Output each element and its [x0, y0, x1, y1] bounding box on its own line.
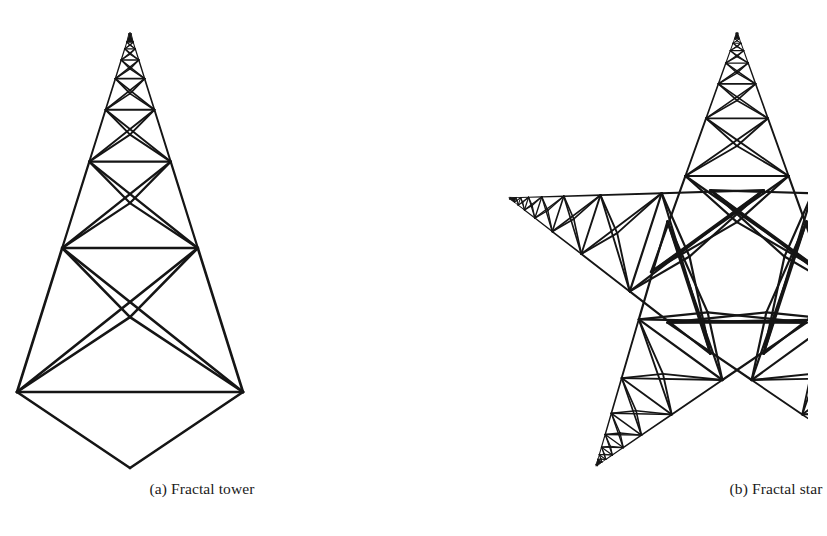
fractal-star-lines	[509, 32, 808, 466]
figure-panel-b: (b) Fractal star	[404, 0, 808, 536]
caption-fractal-tower: (a) Fractal tower	[0, 480, 404, 499]
fractal-tower-lines	[17, 32, 243, 468]
caption-fractal-star: (b) Fractal star	[404, 480, 827, 499]
fractal-tower-figure	[0, 0, 404, 470]
fractal-star-figure	[404, 0, 808, 470]
figure-panel-a: (a) Fractal tower	[0, 0, 404, 536]
